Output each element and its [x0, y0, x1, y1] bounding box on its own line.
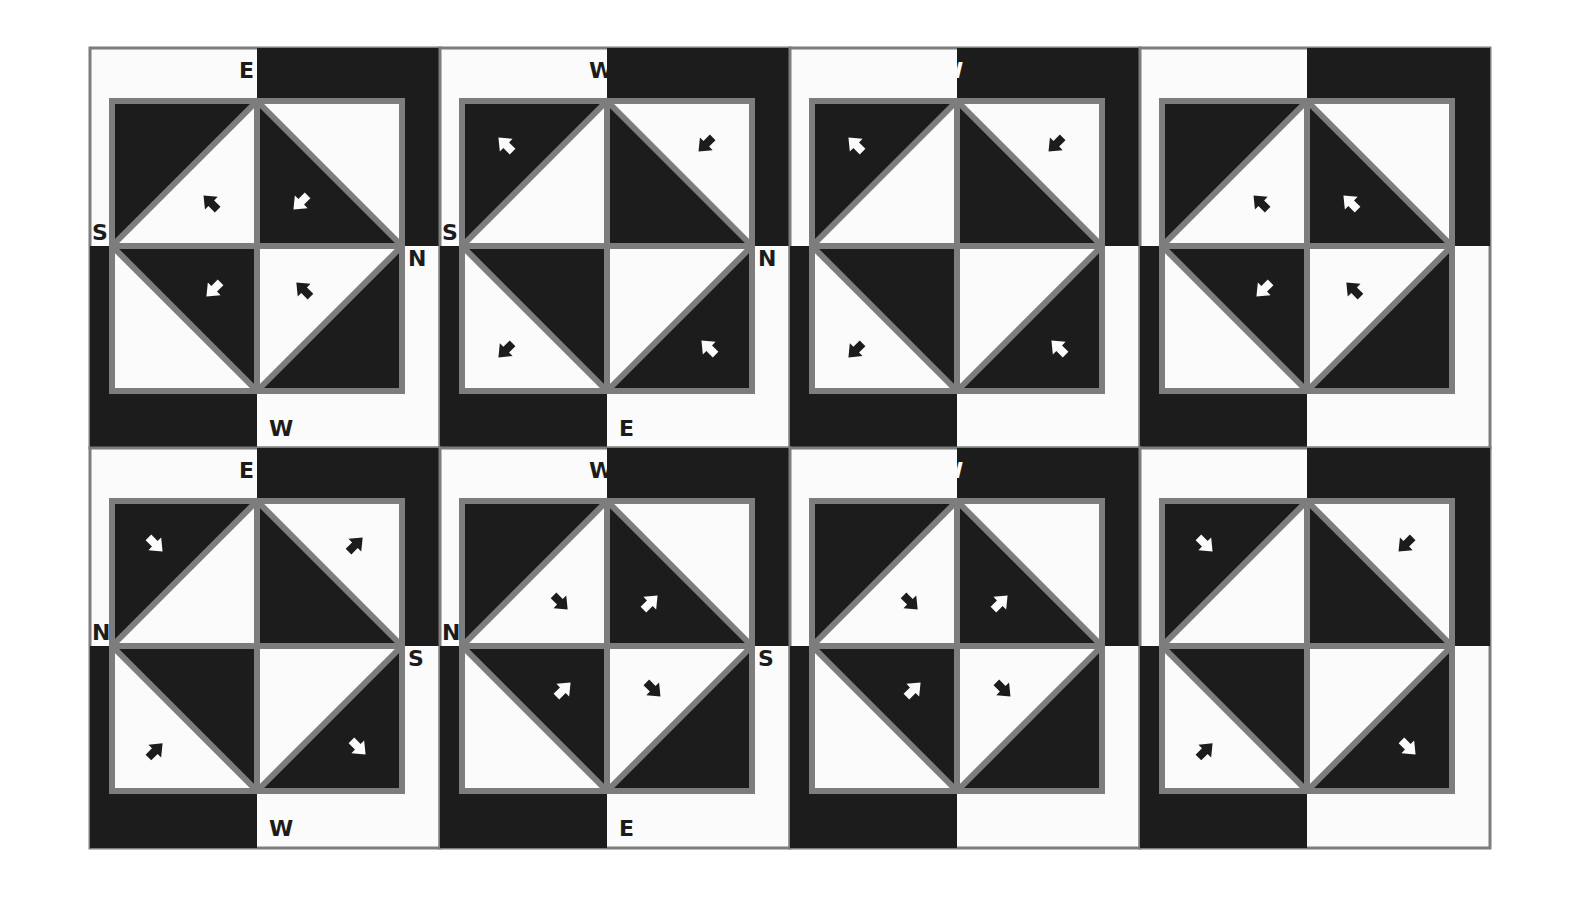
compass-label-right: S: [1108, 646, 1124, 671]
compass-label-top: E: [1289, 458, 1304, 483]
compass-label-bottom: E: [619, 416, 634, 441]
compass-label-bottom: E: [969, 416, 984, 441]
compass-label-left: S: [442, 220, 458, 245]
compass-label-top: W: [939, 458, 963, 483]
compass-label-left: N: [442, 620, 460, 645]
compass-label-right: S: [758, 646, 774, 671]
compass-label-top: W: [589, 458, 613, 483]
compass-label-right: N: [1458, 246, 1476, 271]
compass-label-left: S: [792, 220, 808, 245]
compass-label-bottom: E: [619, 816, 634, 841]
compass-label-left: N: [792, 620, 810, 645]
compass-label-top: E: [239, 458, 254, 483]
compass-label-right: S: [408, 646, 424, 671]
compass-label-right: S: [1458, 646, 1474, 671]
compass-label-top: W: [939, 58, 963, 83]
compass-label-bottom: W: [269, 816, 293, 841]
compass-label-top: W: [589, 58, 613, 83]
compass-label-bottom: E: [969, 816, 984, 841]
compass-label-top: E: [239, 58, 254, 83]
compass-label-right: N: [758, 246, 776, 271]
compass-label-left: N: [92, 620, 110, 645]
compass-label-bottom: W: [269, 416, 293, 441]
compass-label-right: N: [1108, 246, 1126, 271]
compass-label-left: N: [1142, 620, 1160, 645]
compass-label-right: N: [408, 246, 426, 271]
compass-label-bottom: W: [1319, 416, 1343, 441]
compass-label-left: S: [92, 220, 108, 245]
compass-label-left: S: [1142, 220, 1158, 245]
compass-label-bottom: W: [1319, 816, 1343, 841]
compass-label-top: E: [1289, 58, 1304, 83]
artwork-canvas: ESNWWSNEWSNEESNWENSWWNSEWNSEENSW: [0, 0, 1573, 907]
